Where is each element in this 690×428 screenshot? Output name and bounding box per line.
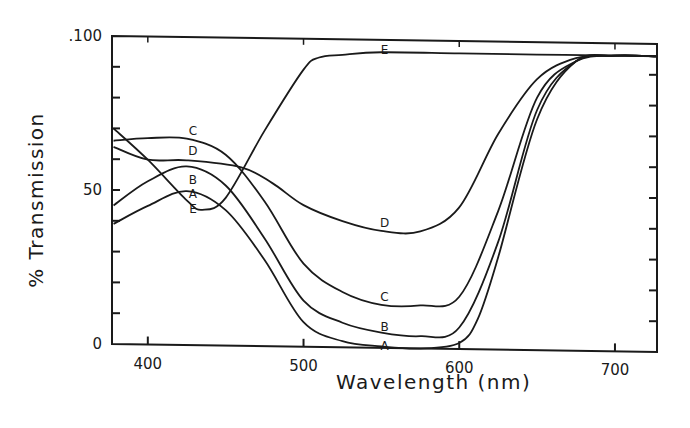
curve-annotation-d: D <box>380 216 389 230</box>
curve-label-b: B <box>189 173 197 187</box>
x-tick-label: 700 <box>601 361 630 379</box>
curve-label-e: E <box>189 202 197 216</box>
curve-annotation-c: C <box>380 290 388 304</box>
transmission-chart: 400500600700050.100 ABCDEEDCBA <box>0 0 690 428</box>
curve-labels: ABCDEEDCBA <box>188 43 389 353</box>
y-axis-title: % Transmission <box>24 100 48 300</box>
y-tick-label: 50 <box>83 181 102 199</box>
curve-label-d: D <box>188 144 197 158</box>
curve-label-c: C <box>189 124 197 138</box>
curve-annotation-b: B <box>380 320 388 334</box>
x-tick-label: 400 <box>133 355 162 373</box>
y-tick-label: 0 <box>92 335 102 353</box>
curve-label-a: A <box>189 187 198 201</box>
x-tick-label: 500 <box>289 357 318 375</box>
curve-annotation-e: E <box>381 43 389 57</box>
curve-annotation-a: A <box>380 339 389 353</box>
x-axis-title: Wavelength (nm) <box>336 370 531 394</box>
y-tick-label: .100 <box>69 27 102 45</box>
